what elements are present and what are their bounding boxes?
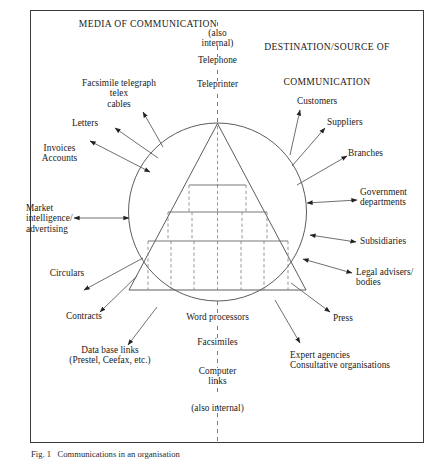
heading-destination-line1: DESTINATION/SOURCE OF bbox=[238, 41, 416, 53]
label-market-intelligence: Market intelligence/ advertising bbox=[26, 203, 98, 234]
axis-label-teleprinter: Teleprinter bbox=[178, 79, 257, 89]
label-invoices-accounts: Invoices Accounts bbox=[30, 143, 89, 164]
axis-label-word-processors: Word processors bbox=[168, 312, 267, 322]
axis-label-telephone: Telephone bbox=[178, 55, 257, 65]
label-expert-agencies: Expert agencies Consultative organisatio… bbox=[290, 350, 422, 371]
label-subsidiaries: Subsidiaries bbox=[360, 236, 432, 246]
figure-caption: Fig. 1 Communications in an organisation bbox=[31, 449, 180, 459]
axis-label-also-internal-top: (also internal) bbox=[178, 28, 257, 49]
heading-destination: DESTINATION/SOURCE OF COMMUNICATION bbox=[238, 18, 416, 99]
label-branches: Branches bbox=[348, 148, 418, 158]
axis-label-computer-links: Computer links bbox=[176, 366, 259, 387]
label-customers: Customers bbox=[297, 96, 367, 106]
label-facsimile-telegraph: Facsimile telegraph telex cables bbox=[66, 78, 172, 109]
heading-destination-line2: COMMUNICATION bbox=[238, 76, 416, 88]
label-database-links: Data base links (Prestel, Ceefax, etc.) bbox=[48, 345, 172, 366]
label-suppliers: Suppliers bbox=[327, 117, 397, 127]
label-legal-advisers: Legal advisers/ bodies bbox=[356, 267, 434, 288]
axis-label-also-internal-bottom: (also internal) bbox=[167, 403, 268, 413]
label-letters: Letters bbox=[58, 118, 112, 128]
label-government-departments: Government departments bbox=[360, 187, 436, 208]
axis-label-facsimiles: Facsimiles bbox=[172, 337, 263, 347]
label-contracts: Contracts bbox=[56, 311, 112, 321]
label-circulars: Circulars bbox=[40, 268, 94, 278]
label-press: Press bbox=[333, 313, 381, 323]
